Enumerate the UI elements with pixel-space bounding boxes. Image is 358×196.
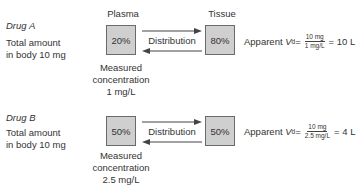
formula-fraction: 10 mg 2.5 mg/L — [304, 123, 331, 140]
formula-result: = 10 L — [329, 36, 356, 47]
fraction-numerator: 10 mg — [305, 33, 325, 42]
arrow-right-icon — [142, 28, 202, 34]
drug-a-tissue-percent: 80% — [210, 35, 229, 46]
measured-line1: Measured — [81, 62, 161, 74]
drug-a-plasma-box: 20% — [106, 25, 136, 55]
drug-a-tissue-box: 80% — [205, 25, 235, 55]
fraction-denominator: 1 mg/L — [304, 42, 326, 50]
drug-a-title: Drug A — [6, 20, 35, 31]
fraction-numerator: 10 mg — [307, 123, 327, 132]
tissue-label: Tissue — [197, 8, 247, 19]
plasma-label: Plasma — [98, 8, 148, 19]
formula-eq: = — [295, 126, 301, 137]
drug-b-desc-line1: Total amount — [6, 127, 66, 139]
formula-result: = 4 L — [334, 126, 355, 137]
drug-a-desc-line2: in body 10 mg — [6, 49, 66, 61]
measured-line3: 2.5 mg/L — [81, 174, 161, 186]
drug-b-desc-line2: in body 10 mg — [6, 139, 66, 151]
drug-b-vd-formula: Apparent Vd = 10 mg 2.5 mg/L = 4 L — [244, 123, 355, 140]
measured-line3: 1 mg/L — [81, 86, 161, 98]
drug-b-measured-concentration: Measured concentration 2.5 mg/L — [81, 150, 161, 186]
formula-eq: = — [295, 36, 301, 47]
drug-a-distribution-label: Distribution — [140, 35, 204, 46]
drug-a-vd-formula: Apparent Vd = 10 mg 1 mg/L = 10 L — [244, 33, 355, 50]
measured-line2: concentration — [81, 74, 161, 86]
arrow-left-icon — [142, 139, 202, 145]
fraction-denominator: 2.5 mg/L — [304, 132, 331, 140]
drug-b-description: Total amount in body 10 mg — [6, 127, 66, 151]
drug-b-title: Drug B — [6, 112, 36, 123]
formula-fraction: 10 mg 1 mg/L — [304, 33, 326, 50]
drug-a-plasma-percent: 20% — [111, 35, 130, 46]
measured-line1: Measured — [81, 150, 161, 162]
formula-prefix: Apparent — [244, 126, 283, 137]
arrow-right-icon — [142, 119, 202, 125]
drug-a-description: Total amount in body 10 mg — [6, 37, 66, 61]
drug-a-desc-line1: Total amount — [6, 37, 66, 49]
drug-b-tissue-box: 50% — [205, 116, 235, 146]
measured-line2: concentration — [81, 162, 161, 174]
formula-prefix: Apparent — [244, 36, 283, 47]
drug-b-distribution-label: Distribution — [140, 126, 204, 137]
arrow-left-icon — [142, 48, 202, 54]
drug-b-plasma-box: 50% — [106, 116, 136, 146]
drug-b-tissue-percent: 50% — [210, 126, 229, 137]
drug-b-plasma-percent: 50% — [111, 126, 130, 137]
drug-a-measured-concentration: Measured concentration 1 mg/L — [81, 62, 161, 98]
